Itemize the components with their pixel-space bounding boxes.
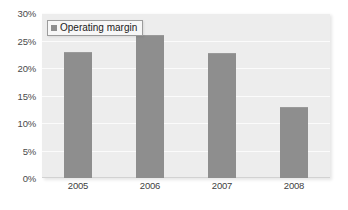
- chart-legend[interactable]: Operating margin: [47, 20, 143, 36]
- y-axis-tick-30: 30%: [18, 8, 36, 19]
- bar-slot-2007: [186, 13, 258, 178]
- legend-label-operating-margin: Operating margin: [60, 23, 137, 33]
- bar-slot-2006: [114, 13, 186, 178]
- y-axis-tick-20: 20%: [18, 63, 36, 74]
- bar-2008[interactable]: [280, 107, 308, 179]
- y-axis-tick-10: 10%: [18, 118, 36, 129]
- x-axis-tick-2008: 2008: [258, 180, 330, 191]
- bar-2005[interactable]: [64, 52, 92, 179]
- y-axis-tick-0: 0%: [23, 173, 36, 184]
- bar-2006[interactable]: [136, 35, 164, 178]
- operating-margin-bar-chart: 30% 25% 20% 15% 10% 5% 0%: [0, 0, 348, 210]
- x-axis-tick-2007: 2007: [186, 180, 258, 191]
- y-axis-tick-15: 15%: [18, 90, 36, 101]
- bar-slot-2008: [258, 13, 330, 178]
- y-axis-tick-25: 25%: [18, 35, 36, 46]
- y-axis: 30% 25% 20% 15% 10% 5% 0%: [0, 0, 40, 210]
- x-axis: 2005 2006 2007 2008: [42, 180, 330, 191]
- bar-group: [42, 13, 330, 178]
- y-axis-tick-5: 5%: [23, 145, 36, 156]
- legend-swatch-operating-margin: [51, 25, 57, 31]
- bar-slot-2005: [42, 13, 114, 178]
- plot-area: [42, 13, 330, 178]
- x-axis-tick-2005: 2005: [42, 180, 114, 191]
- x-axis-tick-2006: 2006: [114, 180, 186, 191]
- bar-2007[interactable]: [208, 53, 236, 178]
